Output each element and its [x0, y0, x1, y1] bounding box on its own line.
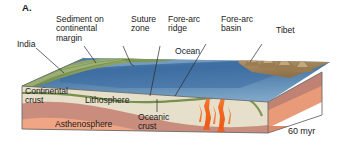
label-suture-zone: Suture zone: [131, 15, 156, 34]
label-continental-crust: Continental crust: [25, 87, 68, 106]
label-ocean: Ocean: [175, 47, 200, 56]
label-tibet: Tibet: [276, 26, 295, 35]
label-sediment-on-continental-margin: Sediment on continental margin: [56, 15, 104, 43]
panel-letter: A.: [22, 3, 32, 12]
label-fore-arc-basin: Fore-arc basin: [221, 15, 253, 34]
label-fore-arc-ridge: Fore-arc ridge: [168, 15, 200, 34]
label-oceanic-crust: Oceanic crust: [138, 113, 169, 132]
label-asthenosphere: Asthenosphere: [55, 120, 112, 129]
age-annotation: 60 myr: [288, 127, 315, 136]
label-lithosphere: Lithosphere: [85, 96, 129, 105]
label-india: India: [17, 40, 35, 49]
